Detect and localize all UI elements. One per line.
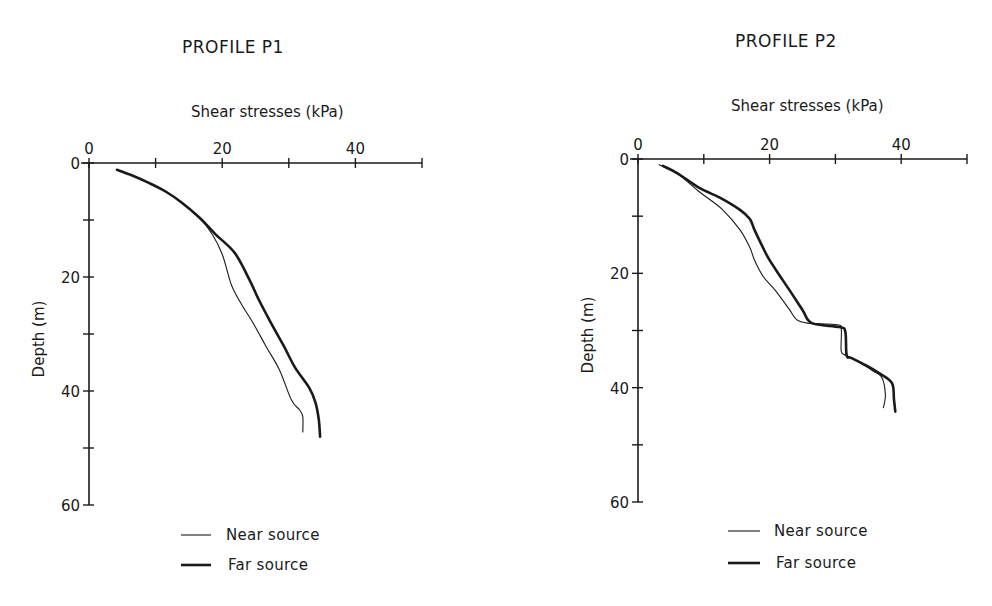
y-tick-label: 20 bbox=[61, 269, 80, 287]
panel-title: PROFILE P2 bbox=[735, 31, 837, 51]
tick-labels: 020400204060 bbox=[610, 136, 911, 512]
y-axis-label: Depth (m) bbox=[579, 297, 597, 374]
series-lines bbox=[117, 170, 320, 437]
x-tick-label: 40 bbox=[892, 136, 911, 154]
y-tick-label: 60 bbox=[61, 497, 80, 515]
legend-item-near-source: Near source bbox=[728, 522, 868, 540]
series-near-source bbox=[117, 170, 303, 432]
series-near-source bbox=[659, 165, 885, 408]
series-far-source bbox=[663, 166, 895, 412]
legend-item-near-source: Near source bbox=[181, 526, 320, 544]
x-tick-label: 20 bbox=[760, 136, 779, 154]
x-axis-label: Shear stresses (kPa) bbox=[191, 103, 344, 121]
axes bbox=[630, 154, 967, 502]
y-tick-label: 0 bbox=[70, 155, 80, 173]
axes bbox=[81, 158, 422, 505]
x-tick-label: 0 bbox=[84, 140, 94, 158]
legend: Near source Far source bbox=[181, 526, 320, 574]
y-tick-label: 0 bbox=[619, 151, 629, 169]
panel-profile-p1: PROFILE P1 Shear stresses (kPa) Depth (m… bbox=[30, 37, 422, 574]
legend-label: Near source bbox=[774, 522, 868, 540]
y-tick-label: 60 bbox=[610, 494, 629, 512]
y-tick-label: 40 bbox=[61, 383, 80, 401]
legend-label: Near source bbox=[226, 526, 320, 544]
panel-title: PROFILE P1 bbox=[182, 37, 284, 57]
panel-profile-p2: PROFILE P2 Shear stresses (kPa) Depth (m… bbox=[579, 31, 967, 572]
chart-canvas: PROFILE P1 Shear stresses (kPa) Depth (m… bbox=[0, 0, 992, 606]
legend-item-far-source: Far source bbox=[181, 556, 308, 574]
legend-label: Far source bbox=[776, 554, 856, 572]
y-tick-label: 20 bbox=[610, 265, 629, 283]
tick-labels: 020400204060 bbox=[61, 140, 365, 515]
x-tick-label: 20 bbox=[213, 140, 232, 158]
x-axis-label: Shear stresses (kPa) bbox=[731, 97, 884, 115]
legend: Near source Far source bbox=[728, 522, 868, 572]
legend-item-far-source: Far source bbox=[728, 554, 856, 572]
y-tick-label: 40 bbox=[610, 380, 629, 398]
figure: PROFILE P1 Shear stresses (kPa) Depth (m… bbox=[0, 0, 992, 606]
y-axis-label: Depth (m) bbox=[30, 301, 48, 378]
x-tick-label: 0 bbox=[633, 136, 643, 154]
legend-label: Far source bbox=[228, 556, 308, 574]
x-tick-label: 40 bbox=[346, 140, 365, 158]
series-lines bbox=[659, 165, 895, 412]
